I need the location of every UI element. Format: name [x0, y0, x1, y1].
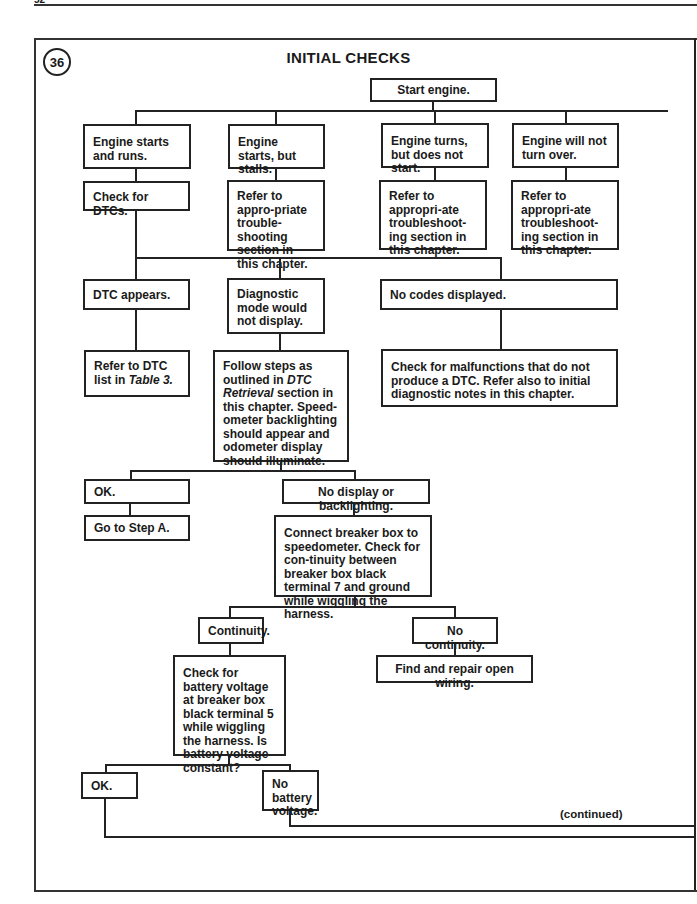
connector: [289, 825, 696, 827]
frame-right-edge: [694, 38, 696, 890]
connector: [135, 310, 137, 350]
node-engine-will-not-turn: Engine will not turn over.: [512, 123, 619, 168]
connector: [135, 211, 137, 259]
connector: [105, 764, 291, 766]
node-ok-2: OK.: [81, 772, 138, 799]
table-reference: Table 3.: [129, 373, 173, 387]
node-ok-1: OK.: [84, 479, 190, 504]
node-refer-no-start: Refer to appropri-ate troubleshoot-ing s…: [379, 180, 487, 250]
connector: [104, 836, 696, 838]
node-no-battery-voltage: No battery voltage.: [262, 770, 319, 811]
connector: [565, 110, 567, 124]
node-no-codes: No codes displayed.: [380, 279, 618, 310]
connector: [275, 110, 277, 124]
connector: [434, 168, 436, 180]
connector: [229, 606, 456, 608]
node-refer-dtc-list: Refer to DTC list in Table 3.: [84, 350, 190, 397]
connector: [104, 799, 106, 838]
node-no-continuity: No continuity.: [412, 617, 498, 644]
connector: [135, 257, 502, 259]
node-engine-starts-runs: Engine starts and runs.: [83, 124, 191, 169]
node-check-battery: Check for battery voltage at breaker box…: [173, 655, 286, 756]
node-connect-breaker: Connect breaker box to speedometer. Chec…: [274, 515, 432, 597]
connector: [500, 257, 502, 279]
node-refer-stalls: Refer to appro-priate trouble-shooting s…: [227, 180, 325, 251]
connector: [279, 257, 281, 279]
node-check-malfunctions: Check for malfunctions that do not produ…: [381, 349, 618, 407]
node-no-display: No display or backlighting.: [282, 479, 430, 504]
node-go-step-a: Go to Step A.: [84, 515, 190, 541]
connector: [135, 110, 137, 124]
node-follow-steps: Follow steps as outlined in DTC Retrieva…: [213, 350, 349, 462]
node-continuity: Continuity.: [198, 617, 264, 644]
figure-title: INITIAL CHECKS: [0, 49, 697, 66]
connector: [279, 334, 281, 350]
connector: [135, 169, 137, 181]
node-engine-starts-stalls: Engine starts, but stalls.: [228, 124, 325, 169]
node-diag-mode-no-display: Diagnostic mode would not display.: [227, 278, 325, 334]
node-repair-wiring: Find and repair open wiring.: [376, 655, 533, 683]
node-refer-no-turn: Refer to appropri-ate troubleshoot-ing s…: [511, 180, 619, 250]
connector: [565, 168, 567, 180]
connector: [500, 310, 502, 350]
connector: [130, 470, 356, 472]
node-dtc-appears: DTC appears.: [83, 279, 190, 310]
connector: [135, 110, 668, 112]
node-start-engine: Start engine.: [370, 78, 497, 102]
node-check-dtcs: Check for DTCs.: [83, 181, 190, 211]
connector: [434, 110, 436, 124]
header-rule: [34, 4, 697, 6]
continued-label: (continued): [560, 808, 623, 820]
connector: [135, 257, 137, 279]
node-engine-turns-no-start: Engine turns, but does not start.: [381, 123, 489, 168]
